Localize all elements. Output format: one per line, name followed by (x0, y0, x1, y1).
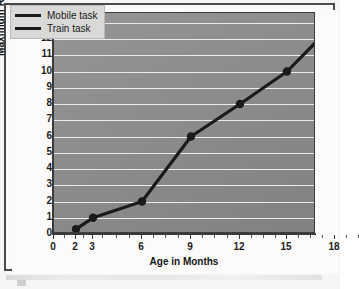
x-axis-minor-tick (310, 235, 311, 238)
x-axis-tick-mark (141, 235, 142, 239)
x-axis-tick-label: 6 (128, 241, 154, 252)
x-axis-minor-tick (102, 235, 103, 238)
x-axis-tick-mark (53, 235, 54, 239)
scan-artifact (6, 275, 322, 280)
x-axis-tick-label: 18 (321, 241, 347, 252)
y-axis-tick-label: 3 (32, 179, 52, 189)
y-axis-tick-label: 6 (32, 131, 52, 141)
x-axis-minor-tick (129, 235, 130, 238)
data-series-layer (54, 13, 315, 233)
x-axis-minor-tick (275, 235, 276, 238)
data-point-marker (283, 67, 291, 75)
x-axis-minor-tick (116, 235, 117, 238)
y-axis-line (52, 12, 54, 235)
x-axis-tick-mark (75, 235, 76, 239)
x-axis-tick-mark (92, 235, 93, 239)
legend-item-train-task: Train task (15, 22, 98, 35)
x-axis-minor-tick (251, 235, 252, 238)
y-axis-tick-label: 0 (32, 228, 52, 238)
x-axis-minor-tick (227, 235, 228, 238)
legend: Mobile task Train task (10, 5, 105, 39)
x-axis-tick-mark (334, 235, 335, 239)
x-axis-tick-label: 15 (273, 241, 299, 252)
data-point-marker (138, 197, 146, 205)
x-axis-minor-tick (64, 235, 65, 238)
x-axis-minor-tick (165, 235, 166, 238)
legend-swatch-icon (15, 14, 41, 17)
y-axis-tick-label: 1 (32, 212, 52, 222)
x-axis-minor-tick (83, 235, 84, 238)
x-axis-minor-tick (214, 235, 215, 238)
x-axis-tick-label: 9 (177, 241, 203, 252)
legend-label: Mobile task (47, 10, 98, 21)
data-point-marker (89, 214, 97, 222)
legend-label: Train task (47, 23, 91, 34)
y-axis-tick-label: 4 (32, 163, 52, 173)
x-axis-tick-label: 12 (226, 241, 252, 252)
y-axis-tick-label: 8 (32, 98, 52, 108)
x-axis-tick-mark (239, 235, 240, 239)
y-axis-tick-label: 11 (32, 49, 52, 59)
series-line (76, 23, 315, 229)
y-axis-title: Maximum Retention in Weeks (0, 0, 6, 56)
x-axis-minor-tick (298, 235, 299, 238)
x-axis-minor-tick (178, 235, 179, 238)
data-point-marker (72, 225, 80, 233)
x-axis-minor-tick (263, 235, 264, 238)
plot-area (53, 12, 315, 233)
y-axis-tick-label: 5 (32, 147, 52, 157)
legend-swatch-icon (15, 27, 41, 30)
data-point-marker (236, 100, 244, 108)
legend-item-mobile-task: Mobile task (15, 9, 98, 22)
y-axis-tick-label: 2 (32, 196, 52, 206)
x-axis-minor-tick (346, 235, 347, 238)
x-axis-tick-mark (190, 235, 191, 239)
y-axis-tick-label: 7 (32, 114, 52, 124)
x-axis-tick-mark (286, 235, 287, 239)
x-axis-tick-label: 3 (79, 241, 105, 252)
y-axis-tick-label: 9 (32, 82, 52, 92)
x-axis-minor-tick (322, 235, 323, 238)
y-axis-tick-label: 10 (32, 66, 52, 76)
x-axis-minor-tick (202, 235, 203, 238)
scan-artifact-mark (17, 280, 26, 286)
x-axis-minor-tick (153, 235, 154, 238)
data-point-marker (187, 132, 195, 140)
x-axis-title: Age in Months (53, 256, 315, 267)
